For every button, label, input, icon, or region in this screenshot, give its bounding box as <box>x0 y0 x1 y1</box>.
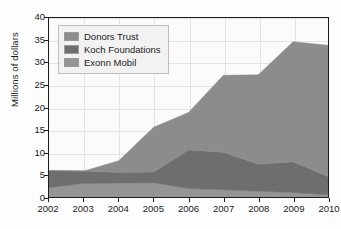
chart-figure: Millions of dollars 0510152025303540 200… <box>0 0 341 229</box>
y-tick-label: 25 <box>19 80 45 89</box>
y-tick-label: 30 <box>19 57 45 66</box>
chart-legend: Donors Trust Koch Foundations Exonn Mobi… <box>58 25 169 74</box>
x-tick-label: 2006 <box>172 204 206 214</box>
y-tick-label: 20 <box>19 103 45 112</box>
x-tick-label: 2005 <box>136 204 170 214</box>
legend-item-koch-foundations[interactable]: Koch Foundations <box>64 43 161 56</box>
legend-swatch-exonn-mobil <box>64 58 79 67</box>
y-tick-label: 10 <box>19 148 45 157</box>
x-tick-mark <box>329 198 330 202</box>
legend-swatch-koch-foundations <box>64 45 79 54</box>
x-tick-label: 2009 <box>277 204 311 214</box>
x-tick-label: 2007 <box>207 204 241 214</box>
x-tick-mark <box>48 198 49 202</box>
y-tick-label: 40 <box>19 12 45 21</box>
y-tick-label: 0 <box>19 193 45 202</box>
x-tick-label: 2002 <box>31 204 65 214</box>
x-tick-mark <box>224 198 225 202</box>
y-axis-title: Millions of dollars <box>9 0 20 146</box>
x-tick-label: 2008 <box>242 204 276 214</box>
legend-label-exonn-mobil: Exonn Mobil <box>84 57 136 68</box>
y-tick-label: 35 <box>19 35 45 44</box>
legend-label-koch-foundations: Koch Foundations <box>84 44 161 55</box>
legend-item-exonn-mobil[interactable]: Exonn Mobil <box>64 56 161 69</box>
x-tick-label: 2003 <box>66 204 100 214</box>
x-tick-mark <box>259 198 260 202</box>
legend-item-donors-trust[interactable]: Donors Trust <box>64 30 161 43</box>
x-tick-mark <box>83 198 84 202</box>
legend-label-donors-trust: Donors Trust <box>84 31 138 42</box>
x-tick-mark <box>118 198 119 202</box>
legend-swatch-donors-trust <box>64 32 79 41</box>
x-tick-mark <box>294 198 295 202</box>
y-tick-label: 5 <box>19 170 45 179</box>
x-tick-mark <box>189 198 190 202</box>
y-tick-label: 15 <box>19 125 45 134</box>
x-tick-label: 2010 <box>312 204 341 214</box>
x-tick-label: 2004 <box>101 204 135 214</box>
x-tick-mark <box>153 198 154 202</box>
